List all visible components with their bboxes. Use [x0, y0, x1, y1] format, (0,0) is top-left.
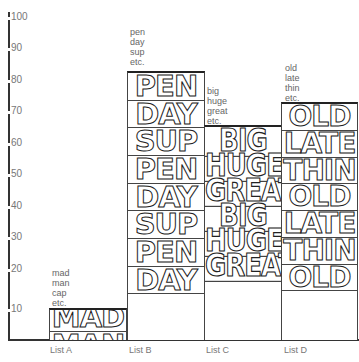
note-line: big	[207, 86, 228, 96]
note-line: etc.	[130, 57, 145, 67]
bar-list-c: BIG HUGE GREAT BIG HUGE GREAT	[204, 125, 282, 340]
note-line: pen	[130, 27, 145, 37]
note-line: old	[285, 63, 300, 73]
bar-word: OLD	[282, 265, 357, 292]
y-tick-10: 10	[11, 304, 22, 314]
y-tick-100: 100	[11, 12, 28, 22]
bar-word: MAN	[50, 332, 126, 340]
note-line: etc.	[52, 298, 70, 308]
note-line: huge	[207, 96, 228, 106]
y-tick-40: 40	[11, 201, 22, 211]
note-line: cap	[52, 288, 70, 298]
note-list-d: old late thin etc.	[285, 63, 300, 103]
bar-list-d: OLD LATE THIN OLD LATE THIN OLD	[281, 102, 358, 340]
y-tick-20: 20	[11, 264, 22, 274]
bar-word: DAY	[128, 267, 204, 295]
y-tick-80: 80	[11, 75, 22, 85]
note-line: late	[285, 73, 300, 83]
y-tick-90: 90	[11, 43, 22, 53]
bar-word: GREAT	[205, 252, 281, 282]
x-label-list-b: List B	[129, 345, 152, 355]
note-list-a: mad man cap etc.	[52, 268, 70, 308]
y-tick-70: 70	[11, 106, 22, 116]
note-line: mad	[52, 268, 70, 278]
x-label-list-d: List D	[284, 345, 307, 355]
note-line: great	[207, 106, 228, 116]
note-list-b: pen day sup etc.	[130, 27, 145, 67]
x-label-list-a: List A	[50, 345, 72, 355]
x-label-list-c: List C	[206, 345, 229, 355]
note-list-c: big huge great etc.	[207, 86, 228, 126]
note-line: day	[130, 37, 145, 47]
note-line: thin	[285, 83, 300, 93]
y-tick-50: 50	[11, 169, 22, 179]
note-line: man	[52, 278, 70, 288]
note-line: sup	[130, 47, 145, 57]
y-tick-60: 60	[11, 138, 22, 148]
bar-list-b: PEN DAY SUP PEN DAY SUP PEN DAY	[127, 71, 205, 340]
y-tick-30: 30	[11, 232, 22, 242]
bar-list-a: MAD MAN	[49, 308, 127, 340]
